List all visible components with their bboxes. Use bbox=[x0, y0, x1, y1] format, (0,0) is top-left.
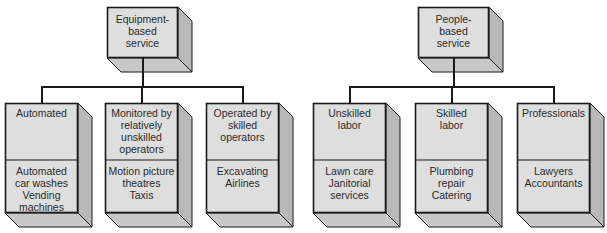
equipment-child-box: AutomatedAutomatedcar washesVendingmachi… bbox=[5, 103, 78, 213]
people-child-box: UnskilledlaborLawn careJanitorialservice… bbox=[313, 103, 386, 213]
box-side-face bbox=[488, 103, 502, 227]
equipment-category-label-line: operators bbox=[206, 131, 279, 143]
equipment-child-box: Monitored byrelativelyunskilledoperators… bbox=[105, 103, 178, 213]
people-examples-label-line: Catering bbox=[415, 189, 488, 201]
equipment-child-box: Operated byskilledoperatorsExcavatingAir… bbox=[206, 103, 279, 213]
people-examples-label-line: repair bbox=[415, 177, 488, 189]
people-root-label-line: People- bbox=[418, 13, 489, 25]
people-category-label: Skilledlabor bbox=[415, 107, 488, 131]
box-side-face bbox=[386, 103, 400, 227]
box-bottom-face bbox=[206, 213, 293, 227]
equipment-examples-label-line: Vending bbox=[5, 189, 78, 201]
equipment-child-connector bbox=[242, 86, 244, 103]
people-root-label-line: service bbox=[418, 37, 489, 49]
people-examples-label-line: Janitorial bbox=[313, 177, 386, 189]
equipment-child-connector bbox=[41, 86, 43, 103]
people-category-label-line: Skilled bbox=[415, 107, 488, 119]
people-category-label: Unskilledlabor bbox=[313, 107, 386, 131]
people-examples-label-line: services bbox=[313, 189, 386, 201]
people-child-box: SkilledlaborPlumbingrepairCatering bbox=[415, 103, 488, 213]
people-examples-label: PlumbingrepairCatering bbox=[415, 165, 488, 201]
equipment-root-label-line: Equipment- bbox=[107, 13, 178, 25]
people-category-label: Professionals bbox=[517, 107, 590, 119]
people-examples-label-line: Plumbing bbox=[415, 165, 488, 177]
equipment-root-box: Equipment-basedservice bbox=[107, 7, 178, 58]
equipment-examples-label: ExcavatingAirlines bbox=[206, 165, 279, 189]
equipment-examples-label-line: Automated bbox=[5, 165, 78, 177]
box-bottom-face bbox=[105, 213, 192, 227]
equipment-examples-label-line: Taxis bbox=[105, 189, 178, 201]
box-side-face bbox=[78, 103, 92, 227]
equipment-examples-label: Motion picturetheatresTaxis bbox=[105, 165, 178, 201]
people-category-label-line: labor bbox=[415, 119, 488, 131]
box-bottom-face bbox=[107, 58, 192, 72]
equipment-category-label: Automated bbox=[5, 107, 78, 119]
people-examples-label: Lawn careJanitorialservices bbox=[313, 165, 386, 201]
equipment-category-label-line: Monitored by bbox=[105, 107, 178, 119]
equipment-examples-label-line: Motion picture bbox=[105, 165, 178, 177]
people-examples-label-line: Accountants bbox=[517, 177, 590, 189]
box-side-face bbox=[178, 103, 192, 227]
equipment-category-label-line: operators bbox=[105, 143, 178, 155]
equipment-examples-label-line: theatres bbox=[105, 177, 178, 189]
equipment-category-label-line: Operated by bbox=[206, 107, 279, 119]
people-child-connector bbox=[553, 86, 555, 103]
equipment-child-connector bbox=[141, 86, 143, 103]
equipment-category-label: Operated byskilledoperators bbox=[206, 107, 279, 143]
equipment-examples-label-line: machines bbox=[5, 201, 78, 213]
people-child-box: ProfessionalsLawyersAccountants bbox=[517, 103, 590, 213]
equipment-examples-label-line: Excavating bbox=[206, 165, 279, 177]
people-root-box: People-basedservice bbox=[418, 7, 489, 58]
equipment-category-label-line: skilled bbox=[206, 119, 279, 131]
people-category-label-line: labor bbox=[313, 119, 386, 131]
people-category-label-line: Professionals bbox=[517, 107, 590, 119]
box-front-face bbox=[518, 104, 590, 213]
people-examples-label: LawyersAccountants bbox=[517, 165, 590, 189]
equipment-category-label: Monitored byrelativelyunskilledoperators bbox=[105, 107, 178, 155]
equipment-category-label-line: relatively bbox=[105, 119, 178, 131]
box-side-face bbox=[590, 103, 604, 227]
people-examples-label-line: Lawn care bbox=[313, 165, 386, 177]
equipment-category-label-line: unskilled bbox=[105, 131, 178, 143]
people-root-label: People-basedservice bbox=[418, 13, 489, 49]
box-bottom-face bbox=[517, 213, 604, 227]
equipment-examples-label-line: car washes bbox=[5, 177, 78, 189]
equipment-examples-label: Automatedcar washesVendingmachines bbox=[5, 165, 78, 213]
box-bottom-face bbox=[313, 213, 400, 227]
people-examples-label-line: Lawyers bbox=[517, 165, 590, 177]
box-bottom-face bbox=[418, 58, 503, 72]
people-category-label-line: Unskilled bbox=[313, 107, 386, 119]
people-child-connector bbox=[451, 86, 453, 103]
people-child-connector bbox=[349, 86, 351, 103]
equipment-root-label-line: based bbox=[107, 25, 178, 37]
box-side-face bbox=[279, 103, 293, 227]
people-root-label-line: based bbox=[418, 25, 489, 37]
equipment-root-label-line: service bbox=[107, 37, 178, 49]
equipment-root-label: Equipment-basedservice bbox=[107, 13, 178, 49]
equipment-root-connector bbox=[142, 58, 144, 87]
box-bottom-face bbox=[5, 213, 92, 227]
equipment-examples-label-line: Airlines bbox=[206, 177, 279, 189]
people-root-connector bbox=[453, 58, 455, 87]
box-bottom-face bbox=[415, 213, 502, 227]
equipment-category-label-line: Automated bbox=[5, 107, 78, 119]
